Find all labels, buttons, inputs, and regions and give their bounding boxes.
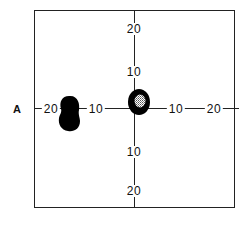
central-scotoma-center (135, 95, 146, 108)
tick-label-right-20: 20 (205, 103, 223, 115)
tick-label-top-20: 20 (125, 23, 143, 35)
eye-label: A (13, 103, 21, 115)
tick-label-top-10: 10 (125, 66, 143, 78)
tick-label-left-10: 10 (87, 103, 105, 115)
tick-label-bottom-10: 10 (125, 146, 143, 158)
tick-label-bottom-20: 20 (125, 185, 143, 197)
blind-spot-shape (59, 96, 80, 131)
tick-label-right-10: 10 (167, 103, 185, 115)
tick-label-left-20: 20 (42, 103, 60, 115)
